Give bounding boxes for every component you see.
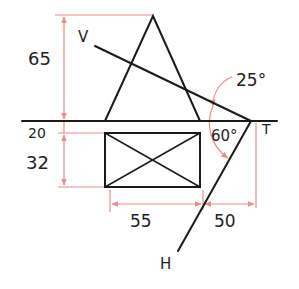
angle-arc-25 [213, 77, 232, 106]
angle-label-25: 25° [236, 70, 266, 90]
drawing-canvas: V H T 65 20 32 55 50 25° 60° [0, 0, 299, 289]
angle-label-60: 60° [211, 127, 238, 145]
triangle-elevation [105, 16, 200, 121]
label-v: V [78, 28, 89, 46]
dim-label-50: 50 [214, 211, 236, 231]
dim-label-55: 55 [130, 211, 152, 231]
label-t: T [261, 121, 271, 137]
vertical-trace-line [95, 46, 251, 121]
dim-label-32: 32 [26, 152, 49, 173]
label-h: H [160, 255, 171, 273]
dim-label-65: 65 [28, 48, 51, 69]
dim-label-20: 20 [28, 125, 46, 141]
technical-drawing: V H T 65 20 32 55 50 25° 60° [0, 0, 299, 289]
